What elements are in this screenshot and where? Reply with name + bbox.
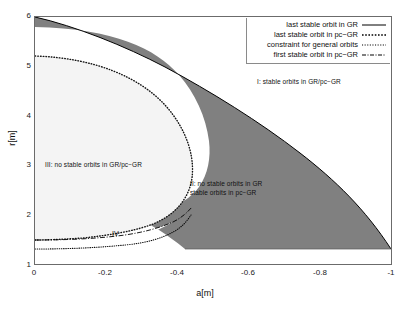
legend-sample-dotted-thick-line-icon	[361, 30, 387, 39]
x-tick-minus-0-6: -0.6	[235, 269, 261, 277]
y-tick-6: 6	[15, 12, 31, 20]
legend-sample-solid-line-icon	[361, 20, 387, 29]
region-iii-fill	[35, 56, 193, 240]
region-label-ii-line1: II: no stable orbits in GR	[190, 180, 262, 189]
legend-label-first-stable-orbit-pcgr: first stable orbit in pc−GR	[274, 50, 358, 59]
figure-container: I: stable orbits in GR/pc−GR II: no stab…	[0, 0, 410, 310]
legend-entry-constraint-general-orbits: constraint for general orbits	[250, 40, 387, 49]
x-axis-title: a[m]	[0, 288, 410, 298]
y-tick-5: 5	[15, 62, 31, 70]
x-tick-minus-0-2: -0.2	[92, 269, 118, 277]
y-tick-4: 4	[15, 112, 31, 120]
region-label-iv: IV	[112, 230, 119, 237]
y-axis-title: r[m]	[7, 108, 17, 168]
legend-sample-dotted-fine-line-icon	[361, 40, 387, 49]
region-label-ii-line2: stable orbits in pc−GR	[190, 189, 262, 198]
y-tick-2: 2	[15, 211, 31, 219]
legend-label-constraint-general-orbits: constraint for general orbits	[267, 40, 358, 49]
x-tick-0: 0	[21, 269, 47, 277]
legend: last stable orbit in GR last stable orbi…	[246, 18, 390, 64]
region-label-ii: II: no stable orbits in GR stable orbits…	[190, 180, 262, 197]
x-tick-minus-1: -1	[378, 269, 404, 277]
region-label-i: I: stable orbits in GR/pc−GR	[257, 78, 341, 86]
y-tick-3: 3	[15, 161, 31, 169]
x-tick-minus-0-4: -0.4	[164, 269, 190, 277]
legend-label-last-stable-orbit-gr: last stable orbit in GR	[286, 20, 358, 29]
y-tick-1: 1	[15, 261, 31, 269]
legend-entry-last-stable-orbit-gr: last stable orbit in GR	[250, 20, 387, 29]
legend-label-last-stable-orbit-pcgr: last stable orbit in pc−GR	[274, 30, 358, 39]
x-tick-minus-0-8: -0.8	[307, 269, 333, 277]
legend-sample-dash-dot-line-icon	[361, 50, 387, 59]
region-label-iii: III: no stable orbits in GR/pc−GR	[45, 161, 142, 169]
legend-entry-first-stable-orbit-pcgr: first stable orbit in pc−GR	[250, 50, 387, 59]
legend-entry-last-stable-orbit-pcgr: last stable orbit in pc−GR	[250, 30, 387, 39]
